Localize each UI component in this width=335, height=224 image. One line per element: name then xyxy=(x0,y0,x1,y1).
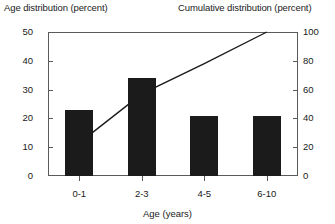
y-right-tick-label: 20 xyxy=(303,141,329,152)
y-left-tick-mark xyxy=(48,118,53,119)
y-right-tick-label: 60 xyxy=(303,84,329,95)
bar xyxy=(65,110,93,176)
y-left-tick-label: 40 xyxy=(7,55,33,66)
y-right-tick-label: 40 xyxy=(303,112,329,123)
y-left-tick-label: 50 xyxy=(7,26,33,37)
y-right-tick-mark xyxy=(293,90,298,91)
x-axis-title: Age (years) xyxy=(0,208,335,219)
x-category-label: 4-5 xyxy=(174,188,234,199)
y-right-tick-mark xyxy=(293,118,298,119)
x-category-label: 6-10 xyxy=(237,188,297,199)
y-right-tick-mark xyxy=(293,61,298,62)
y-left-tick-label: 0 xyxy=(7,170,33,181)
y-left-tick-label: 20 xyxy=(7,112,33,123)
bar xyxy=(128,78,156,176)
x-tick-mark xyxy=(267,176,268,181)
bar xyxy=(253,116,281,176)
y-right-tick-label: 80 xyxy=(303,55,329,66)
x-tick-mark xyxy=(142,176,143,181)
right-axis-title: Cumulative distribution (percent) xyxy=(178,2,311,13)
x-category-label: 0-1 xyxy=(49,188,109,199)
left-axis-title: Age distribution (percent) xyxy=(4,2,108,13)
y-left-tick-label: 10 xyxy=(7,141,33,152)
y-right-tick-label: 100 xyxy=(303,26,329,37)
y-left-tick-label: 30 xyxy=(7,84,33,95)
chart-figure: Age distribution (percent) Cumulative di… xyxy=(0,0,335,224)
y-right-tick-mark xyxy=(293,147,298,148)
y-left-tick-mark xyxy=(48,61,53,62)
y-left-tick-mark xyxy=(48,147,53,148)
y-left-tick-mark xyxy=(48,90,53,91)
x-tick-mark xyxy=(79,176,80,181)
x-category-label: 2-3 xyxy=(112,188,172,199)
x-tick-mark xyxy=(204,176,205,181)
bar xyxy=(190,116,218,176)
y-right-tick-label: 0 xyxy=(303,170,329,181)
